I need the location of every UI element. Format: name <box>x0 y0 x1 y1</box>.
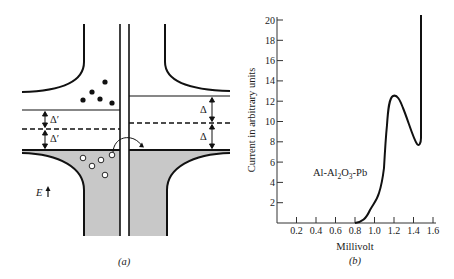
svg-text:20: 20 <box>265 15 275 26</box>
svg-text:8: 8 <box>270 136 275 147</box>
svg-text:6: 6 <box>270 157 275 168</box>
left-upper-dos-curve <box>22 24 84 92</box>
panel-b-iv-chart: 2 4 6 8 10 12 14 16 18 20 0.2 0.4 0.6 0. <box>246 15 439 268</box>
sample-annotation: Al-Al2O3-Pb <box>313 167 367 181</box>
left-gap-label-upper: Δ′ <box>50 114 59 125</box>
right-filled-band <box>129 150 230 236</box>
svg-text:12: 12 <box>265 96 275 107</box>
left-gap-arrows <box>43 112 48 149</box>
svg-text:0.4: 0.4 <box>310 225 323 236</box>
svg-text:1.6: 1.6 <box>427 225 440 236</box>
svg-text:0.2: 0.2 <box>290 225 303 236</box>
svg-text:14: 14 <box>265 75 275 86</box>
svg-text:4: 4 <box>270 177 275 188</box>
right-upper-dos-curve <box>165 24 230 91</box>
svg-text:18: 18 <box>265 35 275 46</box>
energy-up-arrow-icon <box>46 186 51 197</box>
y-tick-labels: 2 4 6 8 10 12 14 16 18 20 <box>265 15 275 209</box>
svg-text:0.8: 0.8 <box>349 225 362 236</box>
svg-text:2: 2 <box>270 197 275 208</box>
svg-text:1.2: 1.2 <box>388 225 401 236</box>
panel-a-caption: (a) <box>118 256 131 268</box>
panel-a-energy-diagram: Δ′ Δ′ Δ Δ <box>22 24 230 268</box>
excited-electrons <box>80 79 114 105</box>
y-axis-label: Current in arbitrary units <box>246 68 257 173</box>
svg-text:10: 10 <box>265 116 275 127</box>
svg-text:0.6: 0.6 <box>329 225 342 236</box>
y-ticks <box>277 20 283 203</box>
panel-b-caption: (b) <box>349 255 362 267</box>
iv-curve <box>355 15 421 223</box>
x-axis-label: Millivolt <box>336 241 373 252</box>
x-tick-labels: 0.2 0.4 0.6 0.8 1.0 1.2 1.4 1.6 <box>290 225 439 236</box>
svg-text:1.4: 1.4 <box>407 225 420 236</box>
right-gap-label-upper: Δ <box>200 104 207 115</box>
svg-text:1.0: 1.0 <box>368 225 381 236</box>
figure-canvas: Δ′ Δ′ Δ Δ <box>0 0 454 279</box>
left-gap-label-lower: Δ′ <box>50 133 59 144</box>
svg-text:16: 16 <box>265 55 275 66</box>
energy-axis-label: E <box>35 187 43 198</box>
right-gap-label-lower: Δ <box>200 131 207 142</box>
